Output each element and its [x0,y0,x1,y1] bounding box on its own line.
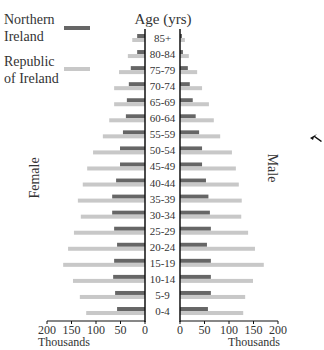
age-label: 10-14 [150,273,176,285]
bar-female-republic-of-ireland-0-4 [86,311,145,315]
mouse-pointer-icon [310,134,322,142]
bar-male-northern-ireland-25-29 [180,227,211,231]
bar-female-northern-ireland-75-79 [131,66,145,70]
bar-female-republic-of-ireland-10-14 [73,279,145,283]
bar-male-northern-ireland-40-44 [180,179,206,183]
bar-male-republic-of-ireland-5-9 [180,295,245,299]
bar-female-northern-ireland-50-54 [120,146,145,150]
age-label: 45-49 [150,160,176,172]
legend-label-northern-ireland-line1: Northern [4,12,55,27]
bar-female-northern-ireland-70-74 [129,82,145,86]
bar-male-northern-ireland-65-69 [180,98,193,102]
age-label: 35-39 [150,193,176,205]
bar-male-republic-of-ireland-75-79 [180,70,197,74]
bar-female-northern-ireland-55-59 [123,130,145,134]
age-label: 0-4 [155,305,170,317]
age-labels-group: 85+80-8475-7970-7465-6960-6455-5950-5445… [150,32,176,317]
legend-swatch-northern-ireland [64,26,90,30]
age-label: 40-44 [150,177,176,189]
bar-male-republic-of-ireland-25-29 [180,231,248,235]
legend-label-republic-of-ireland-line1: Republic [4,54,55,69]
bar-female-northern-ireland-80-84 [137,50,145,54]
legend-label-northern-ireland-line2: Ireland [4,29,44,44]
bar-male-republic-of-ireland-80-84 [180,54,189,58]
bar-male-northern-ireland-45-49 [180,162,202,166]
age-label: 30-34 [150,209,176,221]
population-pyramid-chart: Northern Ireland Republic of Ireland Age… [0,0,324,350]
x-tick-label-left: 50 [115,323,127,337]
bar-female-northern-ireland-25-29 [114,227,145,231]
male-label: Male [265,154,280,183]
bar-male-republic-of-ireland-45-49 [180,166,236,170]
age-label: 60-64 [150,112,176,124]
bar-male-northern-ireland-70-74 [180,82,190,86]
bar-male-northern-ireland-30-34 [180,211,210,215]
bar-female-republic-of-ireland-45-49 [87,166,145,170]
bar-female-republic-of-ireland-75-79 [119,70,145,74]
x-tick-label-right: 0 [177,323,183,337]
bar-male-northern-ireland-5-9 [180,291,211,295]
bar-female-northern-ireland-30-34 [112,211,145,215]
bar-female-republic-of-ireland-35-39 [78,199,145,203]
bar-female-northern-ireland-20-24 [117,243,145,247]
age-label: 65-69 [150,96,176,108]
x-axis-label-right: Thousands [228,335,280,349]
bar-male-republic-of-ireland-55-59 [180,134,220,138]
bar-female-northern-ireland-0-4 [117,307,145,311]
bar-female-republic-of-ireland-40-44 [83,183,145,187]
age-label: 5-9 [155,289,170,301]
bar-male-northern-ireland-20-24 [180,243,207,247]
bar-female-republic-of-ireland-20-24 [68,247,145,251]
bar-female-republic-of-ireland-25-29 [74,231,145,235]
bar-male-republic-of-ireland-70-74 [180,86,202,90]
bar-female-republic-of-ireland-50-54 [93,150,145,154]
bar-male-republic-of-ireland-0-4 [180,311,243,315]
x-tick-label-left: 0 [142,323,148,337]
bar-male-republic-of-ireland-30-34 [180,215,241,219]
bar-male-northern-ireland-60-64 [180,114,196,118]
bar-male-republic-of-ireland-15-19 [180,263,264,267]
age-label: 70-74 [150,80,176,92]
bar-male-northern-ireland-50-54 [180,146,202,150]
bar-male-northern-ireland-35-39 [180,195,208,199]
bar-female-northern-ireland-45-49 [120,162,145,166]
bar-male-republic-of-ireland-40-44 [180,183,239,187]
bar-female-republic-of-ireland-5-9 [80,295,145,299]
age-label: 80-84 [150,48,176,60]
legend: Northern Ireland Republic of Ireland [4,12,90,86]
bar-female-northern-ireland-65-69 [127,98,145,102]
bar-male-northern-ireland-0-4 [180,307,208,311]
bar-female-republic-of-ireland-60-64 [109,118,145,122]
age-label: 20-24 [150,241,176,253]
bar-female-northern-ireland-35-39 [112,195,145,199]
bar-female-northern-ireland-40-44 [116,179,145,183]
bar-female-republic-of-ireland-55-59 [103,134,145,138]
bar-female-republic-of-ireland-70-74 [114,86,145,90]
bar-male-northern-ireland-15-19 [180,259,211,263]
bar-female-republic-of-ireland-85+ [132,38,145,42]
bar-male-republic-of-ireland-65-69 [180,102,209,106]
legend-swatch-republic-of-ireland [64,67,90,71]
bar-male-republic-of-ireland-35-39 [180,199,242,203]
bar-female-northern-ireland-60-64 [126,114,145,118]
bar-male-republic-of-ireland-60-64 [180,118,214,122]
bar-male-northern-ireland-10-14 [180,275,211,279]
age-label: 50-54 [150,144,176,156]
bar-female-republic-of-ireland-30-34 [81,215,145,219]
bar-female-northern-ireland-85+ [137,34,145,38]
legend-label-republic-of-ireland-line2: of Ireland [4,71,59,86]
bar-male-republic-of-ireland-10-14 [180,279,253,283]
bar-female-republic-of-ireland-65-69 [114,102,145,106]
age-label: 25-29 [150,225,176,237]
bar-male-northern-ireland-75-79 [180,66,188,70]
x-tick-label-right: 50 [199,323,211,337]
bar-female-republic-of-ireland-15-19 [63,263,145,267]
x-axis-label-left: Thousands [38,335,90,349]
age-label: 15-19 [150,257,176,269]
bar-female-northern-ireland-5-9 [115,291,145,295]
bar-male-northern-ireland-55-59 [180,130,199,134]
female-label: Female [27,157,42,198]
chart-title: Age (yrs) [134,11,191,28]
bar-male-republic-of-ireland-50-54 [180,150,232,154]
bar-male-republic-of-ireland-20-24 [180,247,255,251]
